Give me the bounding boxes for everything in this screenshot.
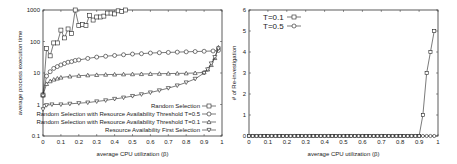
circle-marker-icon: [297, 134, 300, 137]
circle-marker-icon: [357, 134, 360, 137]
circle-marker-icon: [247, 134, 250, 137]
circle-marker-icon: [383, 134, 386, 137]
circle-marker-icon: [368, 134, 371, 137]
circle-marker-icon: [331, 134, 334, 137]
circle-marker-icon: [319, 134, 322, 137]
x-tick-label: 0.8: [182, 139, 191, 145]
circle-marker-icon: [48, 70, 52, 74]
square-marker-icon: [292, 15, 296, 19]
y-tick-label: 4: [243, 49, 247, 55]
circle-marker-icon: [274, 134, 277, 137]
circle-marker-icon: [410, 134, 413, 137]
x-tick-label: 0.3: [302, 139, 311, 145]
circle-marker-icon: [148, 51, 152, 55]
x-tick-label: 0.5: [339, 139, 348, 145]
circle-marker-icon: [45, 74, 49, 78]
circle-marker-icon: [327, 134, 330, 137]
circle-marker-icon: [421, 134, 424, 137]
y-tick-label: 10: [33, 70, 40, 76]
x-tick-label: 0: [41, 139, 45, 145]
circle-marker-icon: [289, 134, 292, 137]
y-tick-label: 1: [37, 102, 41, 108]
x-tick-label: 0.2: [75, 139, 84, 145]
circle-marker-icon: [104, 54, 108, 58]
circle-marker-icon: [334, 134, 337, 137]
circle-marker-icon: [365, 134, 368, 137]
y-tick-label: 0: [243, 133, 247, 139]
circle-marker-icon: [292, 24, 296, 28]
legend-label: T=0.5: [263, 22, 284, 31]
execution-time-chart: 00.10.20.30.40.50.60.70.80.910.111010010…: [17, 7, 224, 157]
x-tick-label: 0.7: [164, 139, 173, 145]
chart-figure: 00.10.20.30.40.50.60.70.80.910.111010010…: [0, 0, 457, 164]
x-tick-label: 0.7: [377, 139, 386, 145]
x-tick-label: 0.3: [93, 139, 102, 145]
y-tick-label: 1: [243, 112, 247, 118]
square-marker-icon: [429, 50, 432, 53]
y-tick-label: 100: [30, 39, 41, 45]
series-circle: [41, 48, 220, 97]
x-tick-label: 0: [247, 139, 251, 145]
x-tick-label: 0.6: [146, 139, 155, 145]
series-square: [41, 8, 127, 97]
series-triangle-down: [41, 47, 220, 111]
square-marker-icon: [84, 24, 88, 28]
legend: Random SelectionRandom Selection with Re…: [36, 103, 216, 133]
circle-marker-icon: [184, 50, 188, 54]
square-marker-icon: [66, 27, 70, 31]
circle-marker-icon: [391, 134, 394, 137]
circle-marker-icon: [338, 134, 341, 137]
circle-marker-icon: [361, 134, 364, 137]
circle-marker-icon: [376, 134, 379, 137]
circle-marker-icon: [113, 53, 117, 57]
y-axis-label: average process execution time: [17, 30, 23, 115]
legend-label: Random Selection with Resource Availabil…: [36, 119, 200, 125]
square-marker-icon: [55, 41, 59, 45]
x-tick-label: 1: [220, 139, 224, 145]
circle-marker-icon: [433, 134, 436, 137]
triangle-down-marker-icon: [193, 77, 197, 81]
y-tick-label: 5: [243, 28, 247, 34]
circle-marker-icon: [77, 58, 81, 62]
square-marker-icon: [433, 29, 436, 32]
x-tick-label: 0.9: [200, 139, 209, 145]
circle-marker-icon: [211, 49, 215, 53]
circle-marker-icon: [175, 50, 179, 54]
square-marker-icon: [421, 113, 424, 116]
y-tick-label: 6: [243, 7, 247, 13]
circle-marker-icon: [270, 134, 273, 137]
x-tick-label: 0.1: [57, 139, 66, 145]
circle-marker-icon: [429, 134, 432, 137]
circle-marker-icon: [251, 134, 254, 137]
x-tick-label: 0.5: [128, 139, 137, 145]
circle-marker-icon: [304, 134, 307, 137]
circle-marker-icon: [131, 52, 135, 56]
square-marker-icon: [88, 13, 92, 17]
square-marker-icon: [59, 28, 63, 32]
circle-marker-icon: [372, 134, 375, 137]
circle-marker-icon: [263, 134, 266, 137]
circle-marker-icon: [255, 134, 258, 137]
square-marker-icon: [425, 71, 428, 74]
x-axis-label: average CPU utilization (β): [97, 151, 169, 157]
y-tick-label: 1000: [27, 7, 41, 13]
circle-marker-icon: [139, 52, 143, 56]
circle-marker-icon: [353, 134, 356, 137]
circle-marker-icon: [86, 56, 90, 60]
series-line: [249, 31, 434, 136]
circle-marker-icon: [399, 134, 402, 137]
circle-marker-icon: [387, 134, 390, 137]
series-line: [43, 50, 218, 95]
circle-marker-icon: [166, 50, 170, 54]
x-tick-label: 1: [436, 139, 440, 145]
circle-marker-icon: [315, 134, 318, 137]
circle-marker-icon: [425, 134, 428, 137]
circle-marker-icon: [406, 134, 409, 137]
circle-marker-icon: [402, 134, 405, 137]
square-marker-icon: [70, 31, 74, 35]
circle-marker-icon: [193, 50, 197, 54]
square-marker-icon: [48, 54, 52, 58]
circle-marker-icon: [259, 134, 262, 137]
square-marker-icon: [123, 8, 127, 12]
circle-marker-icon: [323, 134, 326, 137]
